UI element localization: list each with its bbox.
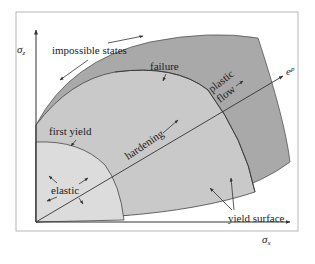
yield-surface-diagram: σz σx ep impossible states failure plast… [0,0,315,264]
impossible-states-label: impossible states [52,44,127,56]
sigma-x-label: σx [262,233,271,247]
first-yield-label: first yield [49,125,92,137]
elastic-label: elastic [51,184,79,196]
yield-surface-label: yield surface [228,212,285,224]
failure-label: failure [150,60,179,72]
